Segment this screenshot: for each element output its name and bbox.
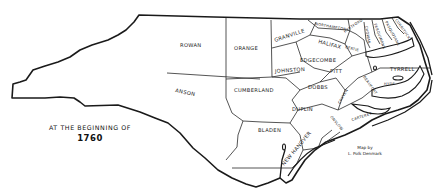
cumberland-johnston-line [272,77,300,123]
map-title: AT THE BEGINNING OF [30,124,150,131]
map-year: 1760 [30,133,150,143]
lake-mattamuskeet [393,76,403,80]
orange-granville-line [271,20,272,77]
label-tyrrell: TYRRELL [389,66,415,72]
label-granville: GRANVILLE [273,27,305,42]
map-credit-line-2: L. Polk Denmark [335,151,395,156]
map-credit-line-1: Map by [335,145,395,150]
label-halifax: HALIFAX [318,38,342,50]
label-bladen: BLADEN [258,127,281,133]
label-onslow: ONSLOW [329,115,344,131]
label-hertford: HERTFORD [343,18,363,34]
label-carteret: CARTERET [351,111,373,121]
label-orange: ORANGE [234,45,258,51]
small-lake-1 [374,66,377,70]
label-craven: CRAVEN [337,88,349,104]
label-bertie: BERTIE [345,45,360,53]
bladen-lake [283,144,286,150]
label-northampton: NORTHAMPTON [315,22,347,31]
albemarle-sound [366,38,414,58]
label-anson: ANSON [175,87,196,97]
cumberland-bladen-line [243,121,290,123]
label-duplin: DUPLIN [292,106,313,112]
label-edgecombe: EDGECOMBE [300,57,336,63]
label-cumberland: CUMBERLAND [234,87,274,93]
hertford-bertie-line [352,34,366,56]
cumberland-top-line [226,72,300,79]
historical-county-map: ROWAN ANSON ORANGE GRANVILLE NORTHAMPTON… [0,0,440,195]
anson-cumberland-line [226,98,243,160]
label-dobbs: DOBBS [308,84,328,90]
label-rowan: ROWAN [180,42,201,48]
label-beaufort: BEAUFORT [362,75,378,95]
label-pitt: PITT [330,68,343,74]
map-svg: ROWAN ANSON ORANGE GRANVILLE NORTHAMPTON… [0,0,440,195]
label-hyde: HYDE [384,82,396,86]
